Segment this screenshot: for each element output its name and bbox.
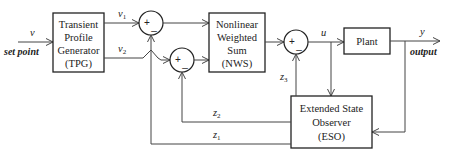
eso-line-3: (ESO) — [318, 131, 345, 143]
summing-junction-1: + _ — [139, 11, 163, 35]
output-label: output — [410, 46, 438, 57]
signal-z2: z2 — [182, 72, 291, 122]
nws-block: Nonlinear Weighted Sum (NWS) — [209, 13, 265, 72]
tpg-line-3: Generator — [58, 45, 100, 56]
s3-plus-sign: + — [289, 36, 295, 47]
tpg-line-4: (TPG) — [65, 58, 92, 70]
signal-z3-label: z3 — [279, 71, 288, 84]
signal-v2-label: v2 — [118, 43, 127, 56]
nws-line-1: Nonlinear — [216, 19, 258, 30]
set-point-label: set point — [3, 46, 40, 57]
summing-junction-3: + _ — [284, 30, 308, 54]
signal-z1-label: z1 — [212, 129, 221, 142]
adrc-block-diagram: v set point Transient Profile Generator … — [0, 0, 449, 156]
signal-v1-label: v1 — [118, 8, 127, 21]
s3-minus-sign: _ — [295, 40, 302, 51]
tpg-line-2: Profile — [64, 32, 93, 43]
signal-z3: z3 — [279, 54, 296, 96]
nws-line-3: Sum — [227, 45, 246, 56]
signal-y-label: y — [419, 26, 425, 37]
tpg-line-1: Transient — [59, 19, 98, 30]
nws-line-4: (NWS) — [222, 58, 253, 70]
signal-v1: v1 — [104, 8, 139, 23]
eso-line-1: Extended State — [300, 103, 364, 114]
signal-z2-label: z2 — [212, 107, 221, 120]
input-signal: v set point — [3, 27, 53, 57]
eso-line-2: Observer — [312, 117, 351, 128]
s2-minus-sign: _ — [181, 58, 188, 69]
tpg-block: Transient Profile Generator (TPG) — [53, 13, 104, 72]
eso-block: Extended State Observer (ESO) — [291, 96, 372, 148]
signal-u: u — [308, 27, 344, 96]
plant-block: Plant — [344, 28, 390, 54]
s2-plus-sign: + — [175, 54, 181, 65]
s1-minus-sign: _ — [150, 21, 157, 32]
signal-v2: v2 — [104, 43, 170, 60]
y-to-eso — [372, 41, 405, 132]
plant-label: Plant — [356, 36, 378, 47]
signal-v-label: v — [30, 27, 35, 38]
summing-junction-2: + _ — [170, 48, 194, 72]
nws-line-2: Weighted — [217, 32, 258, 43]
s1-plus-sign: + — [144, 17, 150, 28]
signal-u-label: u — [321, 27, 326, 38]
